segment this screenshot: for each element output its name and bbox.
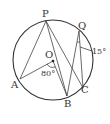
label-c: C — [81, 84, 89, 95]
label-q: Q — [78, 20, 86, 31]
circle-diagram: P Q O A B C 80° 15° — [0, 0, 110, 124]
label-a: A — [10, 79, 19, 90]
label-b: B — [64, 98, 71, 109]
angle-arc-aob — [47, 64, 55, 67]
angle-label-80: 80° — [41, 69, 55, 78]
label-p: P — [42, 8, 49, 19]
label-o: O — [45, 49, 53, 60]
angle-label-15: 15° — [92, 47, 106, 56]
segment-qc — [79, 31, 83, 88]
segment-ob — [53, 61, 67, 96]
angle-leader-15 — [80, 47, 92, 51]
center-point-o — [52, 60, 55, 63]
segment-qb — [67, 31, 79, 96]
